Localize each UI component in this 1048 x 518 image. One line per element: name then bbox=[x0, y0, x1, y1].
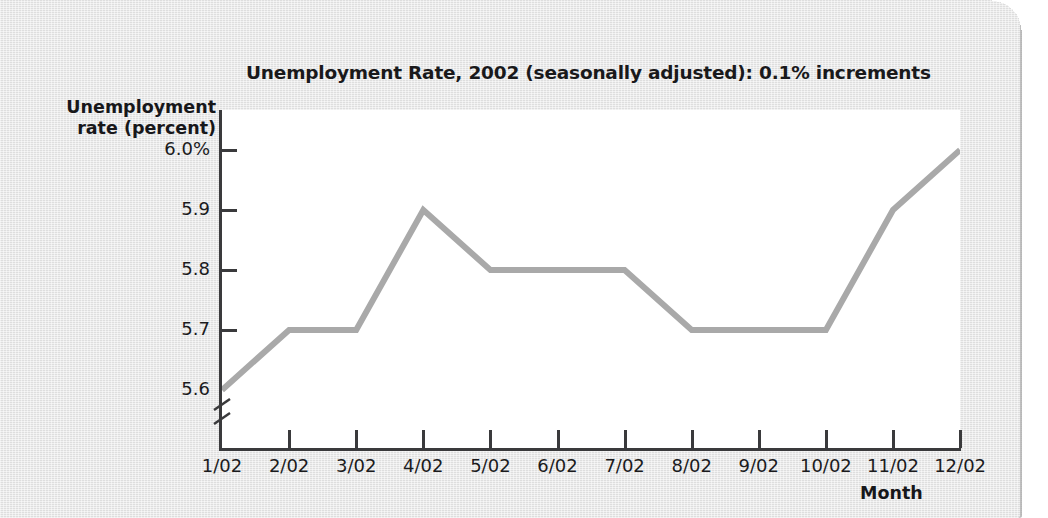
y-tick-mark bbox=[222, 269, 237, 272]
y-axis-title-line2: rate (percent) bbox=[36, 118, 216, 139]
x-tick-mark bbox=[489, 430, 492, 448]
x-tick-mark bbox=[959, 430, 962, 448]
x-tick-mark bbox=[892, 430, 895, 448]
page-corner-mask bbox=[992, 0, 1022, 30]
x-tick-mark bbox=[422, 430, 425, 448]
y-axis-title: Unemployment rate (percent) bbox=[36, 97, 216, 138]
x-tick-mark bbox=[758, 430, 761, 448]
x-tick-label: 12/02 bbox=[915, 455, 1005, 476]
page-right-margin bbox=[1022, 0, 1048, 518]
x-tick-mark bbox=[825, 430, 828, 448]
x-tick-mark bbox=[691, 430, 694, 448]
x-axis-line bbox=[219, 448, 961, 451]
chart-title: Unemployment Rate, 2002 (seasonally adju… bbox=[246, 62, 931, 83]
x-tick-mark bbox=[288, 430, 291, 448]
x-tick-mark bbox=[355, 430, 358, 448]
x-tick-mark bbox=[557, 430, 560, 448]
unemployment-rate-line-series bbox=[222, 110, 960, 448]
y-tick-label: 6.0% bbox=[90, 138, 210, 159]
y-axis-line bbox=[219, 110, 222, 451]
y-tick-mark bbox=[222, 149, 237, 152]
y-tick-label: 5.8 bbox=[90, 258, 210, 279]
y-tick-label: 5.9 bbox=[90, 198, 210, 219]
y-axis-title-line1: Unemployment bbox=[36, 97, 216, 118]
y-tick-mark bbox=[222, 329, 237, 332]
x-axis-title: Month bbox=[860, 483, 923, 503]
x-tick-mark bbox=[624, 430, 627, 448]
y-tick-label: 5.6 bbox=[90, 378, 210, 399]
y-tick-mark bbox=[222, 209, 237, 212]
y-tick-label: 5.7 bbox=[90, 318, 210, 339]
